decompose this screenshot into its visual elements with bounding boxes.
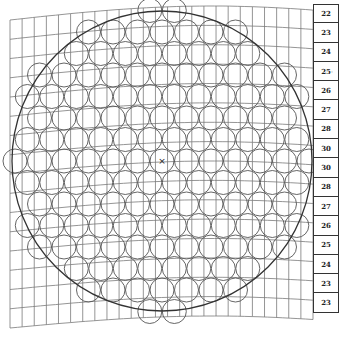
center-mark: × xyxy=(158,156,166,166)
row-value-cell: 26 xyxy=(313,216,339,235)
row-value-cell: 30 xyxy=(313,139,339,158)
grid-circle-diagram: × xyxy=(0,0,345,338)
row-value-cell: 24 xyxy=(313,43,339,62)
row-value-cell: 23 xyxy=(313,293,339,312)
row-value-cell: 26 xyxy=(313,81,339,100)
row-value-cell: 30 xyxy=(313,158,339,177)
row-value-cell: 28 xyxy=(313,178,339,197)
row-value-cell: 25 xyxy=(313,236,339,255)
row-value-cell: 22 xyxy=(313,4,339,23)
row-value-cell: 23 xyxy=(313,274,339,293)
stray-mark: ' xyxy=(331,70,333,78)
row-value-cell: 23 xyxy=(313,23,339,42)
row-value-cell: 27 xyxy=(313,197,339,216)
row-value-cell: 28 xyxy=(313,120,339,139)
row-value-cell: 25 xyxy=(313,62,339,81)
row-value-column: 22232425262728303028272625242323 xyxy=(313,4,339,313)
row-value-cell: 27 xyxy=(313,100,339,119)
row-value-cell: 24 xyxy=(313,255,339,274)
